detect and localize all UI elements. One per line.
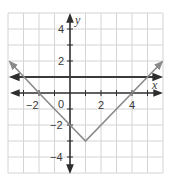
x-tick-neg2: −2 xyxy=(26,99,39,111)
y-axis-label: y xyxy=(74,13,81,27)
y-tick-neg4: −4 xyxy=(50,151,63,163)
y-tick-neg2: −2 xyxy=(50,119,63,131)
x-tick-2: 2 xyxy=(98,99,104,111)
origin-label: 0 xyxy=(58,98,64,110)
y-tick-2: 2 xyxy=(58,55,64,67)
x-tick-4: 4 xyxy=(129,99,135,111)
x-axis-label: x xyxy=(151,78,158,92)
y-tick-4: 4 xyxy=(58,23,64,35)
coordinate-graph: y x 4 2 0 −2 −4 −2 2 4 xyxy=(0,0,173,186)
